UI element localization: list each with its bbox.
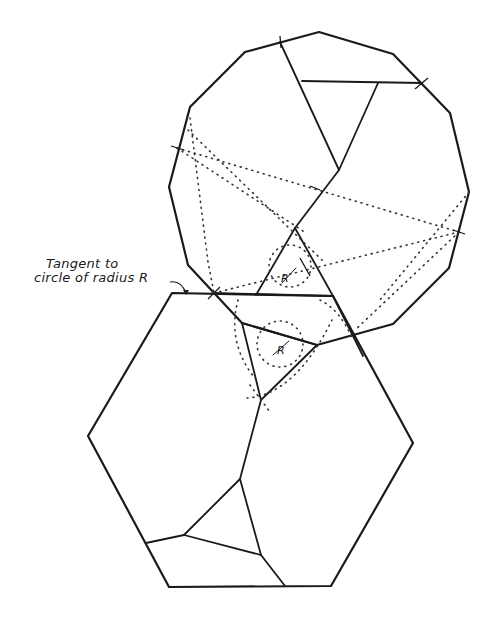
construction-lines [177, 118, 469, 412]
tick-marks [171, 36, 465, 299]
radius-label-upper: R [281, 272, 289, 285]
radius-label-lower: R [277, 344, 285, 357]
annotation-line-2: circle of radius R [34, 271, 148, 285]
hexagon-dissection-lines [146, 323, 317, 586]
annotation-line-1: Tangent to [46, 257, 148, 271]
radius-marker-upper: R [281, 268, 296, 285]
tangent-annotation: Tangent to circle of radius R [46, 257, 148, 285]
dodecagon-dissection-lines [214, 42, 422, 356]
geometry-diagram: R R [0, 0, 500, 623]
dodecagon-outline [169, 32, 469, 345]
annotation-arrow [170, 282, 186, 293]
radius-marker-lower: R [273, 341, 289, 357]
